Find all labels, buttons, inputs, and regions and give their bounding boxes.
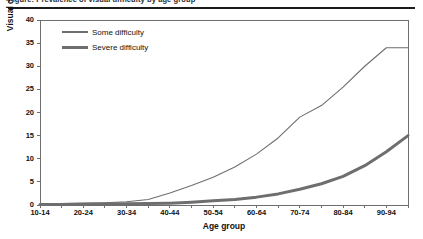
x-tick-label: 10-14 [20, 208, 60, 217]
x-tick-label: 50-54 [193, 208, 233, 217]
y-tick-label: 15 [14, 131, 34, 140]
x-tick-label: 30-34 [107, 208, 147, 217]
y-axis-title: Visual difficulty (%) [5, 0, 15, 52]
legend-label-some-difficulty: Some difficulty [92, 28, 144, 37]
y-tick-label: 35 [14, 38, 34, 47]
x-tick-label: 60-64 [236, 208, 276, 217]
x-tick-label: 40-44 [150, 208, 190, 217]
figure-visual-difficulty-by-age: Figure: Prevalence of visual difficulty … [0, 0, 423, 239]
y-tick-label: 40 [14, 15, 34, 24]
x-tick-label: 90-94 [366, 208, 406, 217]
y-tick-label: 20 [14, 108, 34, 117]
y-tick-label: 30 [14, 61, 34, 70]
x-tick-label: 70-74 [280, 208, 320, 217]
y-tick-label: 10 [14, 154, 34, 163]
legend-label-severe-difficulty: Severe difficulty [92, 43, 148, 52]
line-chart-canvas [0, 0, 423, 239]
series-line-some-difficulty [40, 48, 408, 204]
y-tick-label: 5 [14, 177, 34, 186]
series-line-severe-difficulty [40, 136, 408, 205]
y-tick-label: 25 [14, 84, 34, 93]
x-axis-title: Age group [40, 221, 408, 231]
x-tick-label: 80-84 [323, 208, 363, 217]
series-group [40, 48, 408, 205]
legend-swatches [62, 32, 88, 47]
x-tick-label: 20-24 [63, 208, 103, 217]
